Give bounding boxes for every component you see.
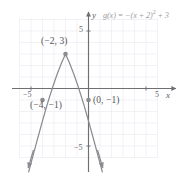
point-label-left: (−4, −1) [30, 100, 62, 110]
equation-annotation-body: g(x) = −(x + 2) [103, 11, 153, 20]
graph-canvas [0, 0, 194, 177]
x-tick-label-5: 5 [155, 90, 159, 99]
point-label-yintercept: (0, −1) [93, 95, 120, 105]
point-label-vertex: (−2, 3) [41, 36, 68, 46]
point-marker-yint [86, 98, 91, 103]
y-axis-label: y [92, 10, 96, 20]
x-tick-label-neg5: −5 [23, 90, 32, 99]
x-axis-label: x [166, 90, 170, 100]
graph-figure: g(x) = −(x + 2)2 + 3 y x −5 5 5 −5 (−2, … [0, 0, 194, 177]
point-marker-vertex [63, 52, 68, 57]
equation-annotation: g(x) = −(x + 2)2 + 3 [103, 9, 169, 20]
equation-annotation-tail: + 3 [156, 11, 169, 20]
y-tick-label-neg5: −5 [74, 143, 83, 152]
y-tick-label-5: 5 [79, 25, 83, 34]
